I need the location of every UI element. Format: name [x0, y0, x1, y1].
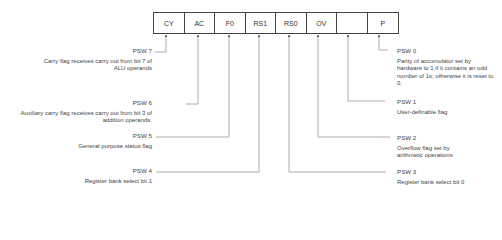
annotation-psw0: PSW 0 Parity of accumulator set by hardw… — [397, 47, 497, 88]
annotation-psw2: PSW 2 Overflow flag set by arithmetic op… — [397, 134, 467, 160]
psw3-label: PSW 3 — [397, 168, 497, 176]
annotation-psw6: PSW 6 Auxiliary carry flag receives carr… — [2, 99, 152, 125]
annotation-psw3: PSW 3 Register bank select bit 0 — [397, 168, 497, 186]
psw7-description: Carry flag receives carry out from bit 7… — [32, 58, 152, 73]
psw2-label: PSW 2 — [397, 134, 467, 142]
annotation-psw4: PSW 4 Register bank select bit 1 — [32, 167, 152, 185]
psw4-description: Register bank select bit 1 — [32, 178, 152, 186]
psw4-label: PSW 4 — [32, 167, 152, 175]
psw5-label: PSW 5 — [32, 132, 152, 140]
annotation-psw7: PSW 7 Carry flag receives carry out from… — [32, 47, 152, 73]
psw2-description: Overflow flag set by arithmetic operatio… — [397, 145, 467, 160]
psw0-label: PSW 0 — [397, 47, 497, 55]
psw5-description: General purpose status flag — [32, 143, 152, 151]
psw6-label: PSW 6 — [2, 99, 152, 107]
psw3-description: Register bank select bit 0 — [397, 179, 497, 187]
psw6-description: Auxiliary carry flag receives carry out … — [2, 110, 152, 125]
annotation-psw1: PSW 1 User-definable flag — [397, 98, 497, 116]
psw1-label: PSW 1 — [397, 98, 497, 106]
annotation-psw5: PSW 5 General purpose status flag — [32, 132, 152, 150]
psw1-description: User-definable flag — [397, 109, 497, 117]
psw7-label: PSW 7 — [32, 47, 152, 55]
psw0-description: Parity of accumulator set by hardware to… — [397, 58, 497, 88]
